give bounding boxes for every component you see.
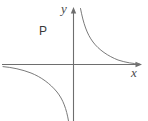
hyperbola-branch-upper-right: [81, 9, 140, 64]
graph-canvas: [0, 0, 148, 121]
x-axis-label: x: [131, 66, 137, 79]
region-label-p: P: [39, 25, 47, 37]
axes-group: [2, 7, 142, 121]
hyperbola-branch-lower-left: [3, 67, 69, 121]
y-axis-arrowhead: [71, 7, 76, 14]
y-axis-label: y: [61, 2, 67, 15]
hyperbola-figure: y x P: [0, 0, 148, 121]
